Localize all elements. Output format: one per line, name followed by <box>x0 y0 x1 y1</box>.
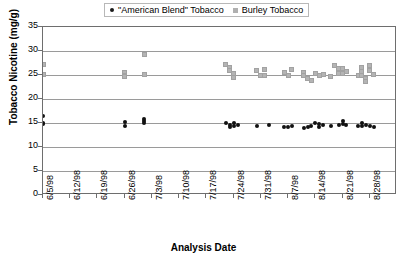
y-axis-tick-label: 20 <box>4 93 38 102</box>
x-axis-tick-mark <box>96 194 97 198</box>
legend-entry-burley: Burley Tobacco <box>233 6 303 15</box>
scatter-chart: "American Blend" Tobacco Burley Tobacco … <box>0 0 407 261</box>
data-point <box>122 74 127 79</box>
x-axis-tick-mark <box>369 194 370 198</box>
x-axis-tick-label: 6/26/98 <box>128 170 137 200</box>
x-axis-tick-mark <box>260 194 261 198</box>
x-axis-tick-mark <box>151 194 152 198</box>
data-point <box>329 124 333 128</box>
x-axis-tick-mark <box>287 194 288 198</box>
legend-label-burley: Burley Tobacco <box>242 6 303 15</box>
data-point <box>328 74 333 79</box>
data-point <box>321 123 325 127</box>
y-axis-tick-label: 15 <box>4 117 38 126</box>
data-point <box>123 120 127 124</box>
data-point <box>344 123 348 127</box>
x-axis-tick-label: 7/24/98 <box>237 170 246 200</box>
data-point <box>372 125 376 129</box>
data-point <box>142 121 146 125</box>
x-axis-tick-label: 7/17/98 <box>209 170 218 200</box>
x-axis-tick-label: 8/7/98 <box>291 175 300 200</box>
data-point <box>309 78 314 83</box>
y-axis-tick-label: 5 <box>4 165 38 174</box>
legend-square-marker-icon <box>233 8 238 13</box>
data-point <box>231 75 236 80</box>
y-axis-tick-label: 10 <box>4 141 38 150</box>
data-point <box>371 72 376 77</box>
x-axis-tick-label: 6/19/98 <box>100 170 109 200</box>
x-axis-tick-label: 6/12/98 <box>73 170 82 200</box>
data-point <box>142 52 147 57</box>
chart-legend: "American Blend" Tobacco Burley Tobacco <box>104 3 309 17</box>
gridline <box>43 171 395 172</box>
data-point <box>262 67 267 72</box>
data-point <box>321 72 326 77</box>
x-axis-tick-mark <box>42 194 43 198</box>
data-point <box>42 122 45 126</box>
x-axis-tick-mark <box>124 194 125 198</box>
gridline <box>43 147 395 148</box>
x-axis-tick-mark <box>314 194 315 198</box>
y-axis-tick-labels: 05101520253035 <box>0 0 38 261</box>
x-axis-tick-mark <box>69 194 70 198</box>
data-point <box>236 123 240 127</box>
gridline <box>43 99 395 100</box>
y-axis-tick-label: 25 <box>4 69 38 78</box>
data-point <box>42 62 46 67</box>
plot-area <box>42 26 396 194</box>
x-axis-tick-label: 7/10/98 <box>182 170 191 200</box>
x-axis-tick-label: 8/14/98 <box>318 170 327 200</box>
x-axis-tick-label: 8/21/98 <box>346 170 355 200</box>
data-point <box>42 72 46 77</box>
data-point <box>289 67 294 72</box>
x-axis-tick-mark <box>342 194 343 198</box>
x-axis-tick-mark <box>233 194 234 198</box>
x-axis-tick-mark <box>178 194 179 198</box>
data-point <box>123 124 127 128</box>
x-axis-title: Analysis Date <box>0 243 407 253</box>
data-point <box>286 73 291 78</box>
y-axis-tick-label: 0 <box>4 189 38 198</box>
data-point <box>344 69 349 74</box>
data-point <box>255 124 259 128</box>
legend-dot-marker-icon <box>110 8 114 12</box>
y-axis-tick-label: 30 <box>4 45 38 54</box>
gridline <box>43 51 395 52</box>
data-point <box>290 124 294 128</box>
x-axis-tick-mark <box>205 194 206 198</box>
x-axis-tick-label: 6/5/98 <box>46 175 55 200</box>
data-point <box>42 114 45 118</box>
y-axis-tick-label: 35 <box>4 21 38 30</box>
x-axis-tick-label: 7/3/98 <box>155 175 164 200</box>
data-point <box>267 123 271 127</box>
x-axis-tick-label: 7/31/98 <box>264 170 273 200</box>
legend-label-american-blend: "American Blend" Tobacco <box>118 6 224 15</box>
data-point <box>363 79 368 84</box>
data-point <box>142 72 147 77</box>
x-axis-tick-label: 8/28/98 <box>373 170 382 200</box>
legend-entry-american-blend: "American Blend" Tobacco <box>110 6 224 15</box>
data-point <box>262 73 267 78</box>
